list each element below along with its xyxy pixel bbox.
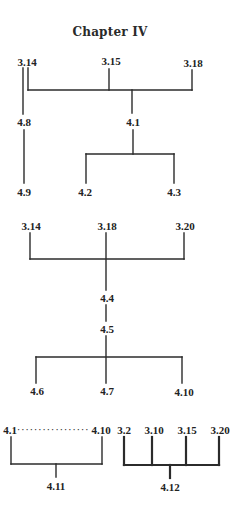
node-3-20-mid: 3.20 <box>175 221 194 232</box>
node-4-8: 4.8 <box>17 117 31 128</box>
dependency-diagram-lines <box>0 0 243 521</box>
node-3-15-bottom: 3.15 <box>177 425 196 436</box>
node-4-6: 4.6 <box>30 386 44 397</box>
node-3-18-mid: 3.18 <box>97 221 116 232</box>
node-4-9: 4.9 <box>17 187 31 198</box>
node-4-1-range-start: 4.1 <box>3 425 17 436</box>
node-4-10: 4.10 <box>174 387 193 398</box>
diagram-2-lines <box>30 233 184 383</box>
node-4-7: 4.7 <box>100 386 114 397</box>
diagram-1-lines <box>23 68 192 183</box>
node-4-12: 4.12 <box>160 482 179 493</box>
node-3-18-top: 3.18 <box>183 58 202 69</box>
node-4-2: 4.2 <box>78 187 92 198</box>
node-3-20-bottom: 3.20 <box>210 425 229 436</box>
node-4-11: 4.11 <box>47 481 66 492</box>
node-4-4: 4.4 <box>100 293 114 304</box>
node-3-10: 3.10 <box>144 425 163 436</box>
diagram-3-lines <box>11 437 102 477</box>
node-4-3: 4.3 <box>167 187 181 198</box>
node-4-10-range-end: 4.10 <box>91 425 110 436</box>
node-4-5: 4.5 <box>100 324 114 335</box>
node-3-15-top: 3.15 <box>101 56 120 67</box>
range-dots: ················· <box>17 424 89 435</box>
node-3-2: 3.2 <box>117 425 131 436</box>
node-3-14-top: 3.14 <box>17 57 36 68</box>
node-3-14-mid: 3.14 <box>21 221 40 232</box>
diagram-4-lines <box>124 437 219 478</box>
node-4-1: 4.1 <box>126 117 140 128</box>
